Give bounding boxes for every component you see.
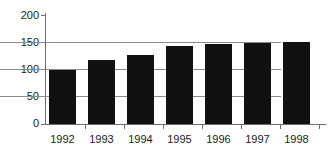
y-tick-label-200: 200 [1,10,39,21]
x-tick-label-1994: 1994 [121,133,160,146]
x-tick-mark-5 [241,125,242,129]
x-tick-mark-3 [163,125,164,129]
bar-1994 [127,55,154,124]
bar-1995 [166,46,193,124]
x-tick-mark-4 [202,125,203,129]
x-tick-label-1995: 1995 [160,133,199,146]
x-tick-label-1992: 1992 [43,133,82,146]
gridline-150 [0,42,281,43]
x-tick-label-1993: 1993 [82,133,121,146]
x-tick-mark-6 [280,125,281,129]
bar-1997 [244,43,271,124]
x-tick-label-1996: 1996 [199,133,238,146]
y-tick-label-0: 0 [1,118,39,129]
x-tick-label-1997: 1997 [238,133,277,146]
bar-chart: 200 150 100 50 0 1992 1993 1994 1995 199… [0,0,335,159]
x-tick-mark-7 [319,125,320,129]
bar-1998 [283,42,310,124]
bar-1992 [49,70,76,125]
x-axis-line [45,124,326,125]
bar-1993 [88,60,115,124]
x-tick-mark-2 [124,125,125,129]
x-tick-mark-1 [85,125,86,129]
bar-1996 [205,44,232,124]
x-tick-label-1998: 1998 [277,133,316,146]
y-axis-labels: 200 150 100 50 0 [0,0,39,159]
